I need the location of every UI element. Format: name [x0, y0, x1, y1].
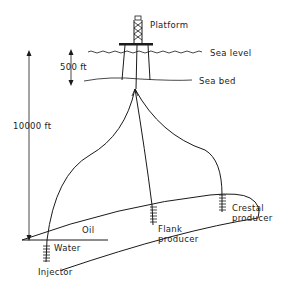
platform-label: Platform [150, 20, 188, 30]
crestal-producer-label-line1: Crestal [232, 203, 264, 213]
water-zone-label: Water [54, 243, 81, 253]
crestal-producer-well-path [135, 89, 222, 212]
oilfield-diagram: Platform Sea level Sea bed 500 ft 10000 … [0, 0, 285, 286]
water-depth-label: 500 ft [60, 62, 87, 72]
reservoir-depth-arrow [27, 50, 32, 241]
reservoir-outline [22, 194, 259, 270]
flank-producer-label-line1: Flank [158, 224, 182, 234]
flank-producer-label-line2: producer [158, 234, 199, 244]
injector-well-path [46, 89, 135, 262]
reservoir-depth-label: 10000 ft [13, 121, 52, 131]
flank-producer-perforations-icon [150, 207, 157, 222]
sea-bed-label: Sea bed [199, 76, 236, 86]
crestal-producer-label-line2: producer [232, 213, 273, 223]
sea-level-line [88, 51, 202, 53]
sea-bed-line [84, 78, 192, 81]
sea-level-label: Sea level [210, 48, 251, 58]
injector-label: Injector [38, 267, 73, 277]
oil-zone-label: Oil [82, 225, 94, 235]
